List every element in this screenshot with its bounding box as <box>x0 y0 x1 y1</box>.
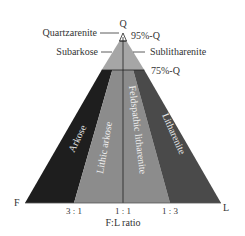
q95-label: 95%-Q <box>131 30 161 41</box>
ratio-3-1-label: 3 : 1 <box>66 206 82 216</box>
subarkose-label: Subarkose <box>56 46 98 57</box>
vertex-l-label: L <box>223 202 229 213</box>
ternary-diagram: Q F L Quartzarenite Subarkose Sublithare… <box>0 0 245 236</box>
vertex-f-label: F <box>14 197 20 208</box>
ratio-1-1-label: 1 : 1 <box>115 206 131 216</box>
quartzarenite-label: Quartzarenite <box>43 27 98 38</box>
vertex-q-label: Q <box>119 18 127 29</box>
ratio-1-3-label: 1 : 3 <box>162 206 179 216</box>
q75-label: 75%-Q <box>151 65 181 76</box>
fl-ratio-axis-label: F:L ratio <box>106 217 141 228</box>
sublitharenite-label: Sublitharenite <box>150 46 207 57</box>
